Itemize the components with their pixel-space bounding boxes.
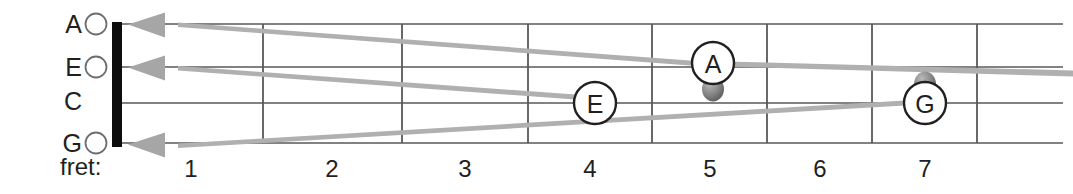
note-label-a: A: [705, 50, 722, 78]
fretboard-svg: A E G: [0, 0, 1073, 194]
note-marker-e[interactable]: E: [574, 82, 616, 124]
note-label-e: E: [587, 90, 604, 118]
open-string-circle-e: [86, 57, 107, 78]
arrow-g-to-open-g: [128, 101, 905, 158]
nut: [112, 22, 122, 147]
note-label-g: G: [915, 90, 934, 118]
fretboard-diagram: A E C G fret: 1 2 3 4 5 6 7: [0, 0, 1073, 194]
arrow-e-to-open-e: [128, 56, 575, 100]
note-marker-g[interactable]: G: [904, 72, 946, 125]
open-string-circle-a: [86, 14, 107, 35]
note-marker-a[interactable]: A: [692, 42, 734, 102]
open-string-circle-g: [86, 133, 107, 154]
